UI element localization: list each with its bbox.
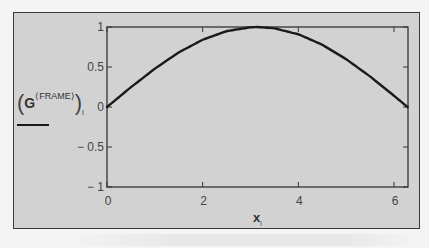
axis-ticks: [107, 27, 408, 187]
legend-label: (G⟨FRAME⟩)i: [17, 90, 84, 116]
y-tick-label: − 1: [87, 180, 104, 194]
x-tick-label: 4: [296, 194, 303, 208]
x-tick-label: 6: [392, 194, 399, 208]
bleed-through-text: [60, 234, 420, 246]
x-axis-label: xi: [253, 210, 262, 225]
legend-symbol: G: [24, 95, 35, 111]
chart-plot: 0246− 1− 0.500.51: [0, 0, 429, 248]
y-tick-label: 0.5: [87, 60, 104, 74]
y-tick-label: 0: [97, 100, 104, 114]
y-tick-label: − 0.5: [77, 140, 104, 154]
legend-close-paren: ): [75, 90, 82, 115]
data-line: [107, 27, 408, 107]
x-tick-label: 0: [105, 194, 112, 208]
x-tick-label: 2: [200, 194, 207, 208]
tick-labels: 0246− 1− 0.500.51: [77, 20, 399, 208]
legend-subscript: i: [82, 108, 84, 117]
y-tick-label: 1: [97, 20, 104, 34]
plot-axes: [107, 27, 408, 187]
legend-superscript: ⟨FRAME⟩: [35, 91, 75, 101]
legend-line-swatch: [17, 124, 49, 126]
x-axis-subscript: i: [260, 220, 262, 227]
